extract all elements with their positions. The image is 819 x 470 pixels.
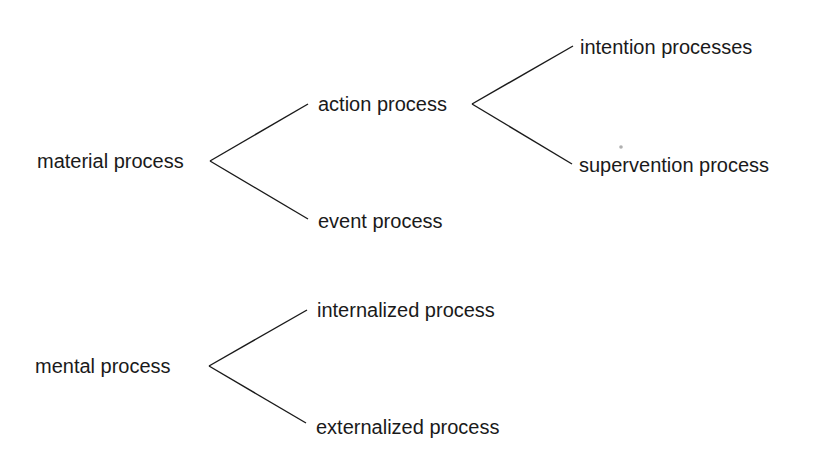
node-event-process: event process <box>318 210 443 232</box>
node-action-process: action process <box>318 93 447 115</box>
mental-process-tree: mental process internalized process exte… <box>35 299 499 438</box>
edge-action-to-supervention <box>472 104 572 164</box>
node-mental-process: mental process <box>35 355 171 377</box>
material-process-tree: material process action process intentio… <box>37 36 769 232</box>
node-internalized-process: internalized process <box>317 299 495 321</box>
edge-action-to-intention <box>472 46 573 104</box>
node-intention-processes: intention processes <box>580 36 752 58</box>
node-material-process: material process <box>37 150 184 172</box>
edge-mental-to-externalized <box>209 366 306 423</box>
edge-material-to-action <box>210 104 308 161</box>
edge-material-to-event <box>210 161 308 219</box>
node-externalized-process: externalized process <box>316 416 499 438</box>
node-supervention-process: supervention process <box>579 154 769 176</box>
process-taxonomy-diagram: material process action process intentio… <box>0 0 819 470</box>
scan-speck <box>619 145 623 149</box>
edge-mental-to-internalized <box>209 310 307 366</box>
